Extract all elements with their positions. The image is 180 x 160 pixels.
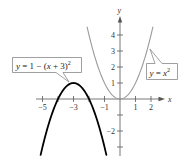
black-curve-label: y = 1 − (x + 3)2 <box>15 60 71 71</box>
x-tick-label: −1 <box>100 103 109 112</box>
parabola-shifted <box>41 83 107 155</box>
y-tick-label: 4 <box>111 31 115 40</box>
x-tick-label: 2 <box>149 103 153 112</box>
x-tick-label: −5 <box>38 103 47 112</box>
y-tick-label: 3 <box>111 47 115 56</box>
x-axis-label: x <box>167 95 172 104</box>
curves <box>41 27 153 155</box>
y-axis-arrow-icon <box>118 16 122 23</box>
annotations: y = 1 − (x + 3)2 y = x2 <box>13 49 178 82</box>
x-tick-label: −3 <box>69 103 78 112</box>
y-tick-label: 1 <box>111 79 115 88</box>
y-tick-label: −2 <box>106 127 115 136</box>
x-tick-label: 1 <box>134 103 138 112</box>
graph: xy−5−3−1124321−2 y = 1 − (x + 3)2 y = x2 <box>0 0 180 160</box>
y-axis-label: y <box>117 6 122 15</box>
y-tick-label: 2 <box>111 63 115 72</box>
gray-curve-label: y = x2 <box>149 67 171 78</box>
x-axis-arrow-icon <box>159 97 166 101</box>
